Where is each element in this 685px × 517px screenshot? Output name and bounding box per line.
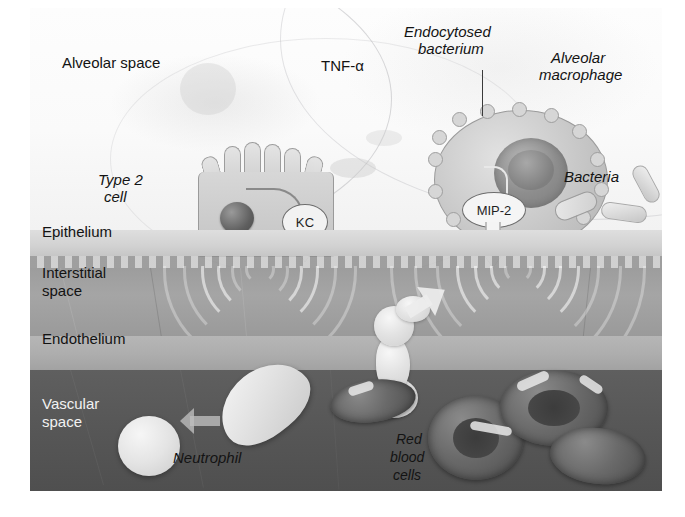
membrane-ruffle <box>544 108 559 123</box>
label-alveolar-space: Alveolar space <box>62 55 160 72</box>
label-alveolar-macrophage-line2: macrophage <box>539 67 622 84</box>
label-red-blood-cells-line2: blood <box>390 450 424 466</box>
neutrophil <box>118 416 180 476</box>
label-alveolar-macrophage-line1: Alveolar <box>551 50 605 67</box>
membrane-ruffle <box>428 184 443 199</box>
label-type-2-cell-line1: Type 2 <box>98 172 143 189</box>
label-neutrophil: Neutrophil <box>173 450 241 467</box>
label-red-blood-cells-line3: cells <box>393 468 421 484</box>
alveolar-vesicle <box>366 130 402 146</box>
membrane-ruffle <box>432 130 447 145</box>
epithelium-region <box>30 230 662 256</box>
label-bacteria: Bacteria <box>564 169 619 186</box>
membrane-ruffle <box>428 152 443 167</box>
kc-chemokine-gradient <box>156 266 366 338</box>
membrane-ruffle <box>572 124 587 139</box>
membrane-ruffle <box>590 152 605 167</box>
endocytosed-bacterium-leader <box>482 70 483 116</box>
label-endothelium: Endothelium <box>42 331 125 348</box>
label-vascular-space-line1: Vascular <box>42 396 99 413</box>
alveolar-vesicle <box>180 63 236 115</box>
membrane-ruffle <box>512 102 527 117</box>
label-type-2-cell-line2: cell <box>104 189 127 206</box>
label-vascular-space-line2: space <box>42 414 82 431</box>
membrane-ruffle <box>446 212 461 227</box>
label-endocytosed-bacterium-line1: Endocytosed <box>404 24 491 41</box>
rolling-direction-arrow <box>180 408 222 434</box>
membrane-ruffle <box>452 112 467 127</box>
label-epithelium: Epithelium <box>42 224 112 241</box>
figure-root: KC <box>0 0 685 517</box>
kc-label: KC <box>296 215 314 230</box>
label-interstitial-space-line1: Interstitial <box>42 265 106 282</box>
mip2-label: MIP-2 <box>477 203 512 218</box>
endocytosed-bacterium <box>508 150 554 190</box>
label-interstitial-space-line2: space <box>42 283 82 300</box>
label-red-blood-cells-line1: Red <box>396 432 422 448</box>
label-endocytosed-bacterium-line2: bacterium <box>418 41 484 58</box>
fiber-striation <box>330 370 339 490</box>
label-tnf-alpha: TNF-α <box>321 58 364 75</box>
